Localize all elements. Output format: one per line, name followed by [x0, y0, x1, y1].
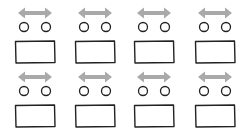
rectangle-shape: [16, 105, 56, 127]
circle-icon-left: [80, 23, 89, 32]
circle-icon-left: [20, 87, 29, 96]
double-arrow-icon: [18, 8, 52, 19]
double-arrow-icon: [198, 72, 232, 83]
double-arrow-icon: [137, 8, 171, 19]
double-arrow-icon: [18, 72, 52, 83]
rectangle-shape: [76, 105, 116, 127]
double-arrow-icon: [78, 8, 112, 19]
circle-icon-left: [20, 23, 29, 32]
double-arrow-icon: [198, 8, 232, 19]
sketch-unit-4: [194, 6, 242, 66]
diagram-canvas: [0, 0, 248, 136]
rectangle-shape: [196, 105, 236, 127]
double-arrow-icon: [78, 72, 112, 83]
rectangle-shape: [135, 105, 175, 127]
double-arrow-icon: [137, 72, 171, 83]
circle-icon-left: [80, 87, 89, 96]
circle-icon-left: [139, 87, 148, 96]
rectangle-shape: [196, 41, 236, 63]
circle-icon-right: [222, 87, 231, 96]
circle-icon-left: [139, 23, 148, 32]
sketch-unit-2: [74, 6, 122, 66]
sketch-unit-6: [74, 70, 122, 130]
sketch-unit-7: [133, 70, 181, 130]
rectangle-shape: [16, 41, 56, 63]
circle-icon-right: [161, 87, 170, 96]
circle-icon-right: [102, 23, 111, 32]
sketch-unit-8: [194, 70, 242, 130]
sketch-unit-3: [133, 6, 181, 66]
rectangle-shape: [76, 41, 116, 63]
circle-icon-right: [222, 23, 231, 32]
circle-icon-left: [200, 87, 209, 96]
circle-icon-right: [42, 87, 51, 96]
sketch-unit-5: [14, 70, 62, 130]
circle-icon-left: [200, 23, 209, 32]
circle-icon-right: [42, 23, 51, 32]
rectangle-shape: [135, 41, 175, 63]
circle-icon-right: [161, 23, 170, 32]
sketch-unit-1: [14, 6, 62, 66]
circle-icon-right: [102, 87, 111, 96]
